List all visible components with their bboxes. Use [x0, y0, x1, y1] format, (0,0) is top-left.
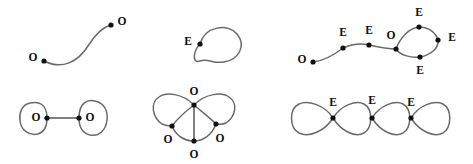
graph-vertex-label: O	[164, 133, 173, 145]
graph-vertex-dot	[393, 46, 398, 51]
graph-parity-figure: OOEOEEOEEEOOOOOOEEE	[0, 0, 473, 164]
graph-vertex-dot	[408, 115, 413, 120]
graph-vertex-dot	[369, 115, 374, 120]
graph-curve-edge	[44, 25, 111, 65]
graph-curve-edge	[194, 124, 216, 141]
graph-vertex-label: O	[118, 15, 127, 27]
graph-vertex-dot	[108, 22, 113, 27]
graph-vertex-label: O	[29, 51, 38, 63]
graph-panel-single-loop-one-even: E	[184, 28, 241, 63]
graph-vertex-dot	[340, 45, 345, 50]
graph-vertex-dot	[169, 123, 174, 128]
graph-svg-canvas: OOEOEEOEEEOOOOOOEEE	[0, 0, 473, 164]
graph-vertex-dot	[197, 41, 202, 46]
graph-vertex-label: O	[86, 111, 95, 123]
graph-vertex-dot	[310, 59, 315, 64]
graph-loop-edge	[333, 103, 371, 135]
graph-curve-edge	[194, 105, 216, 124]
graph-vertex-label: O	[298, 53, 307, 65]
graph-vertex-dot	[213, 121, 218, 126]
graph-vertex-label: O	[387, 29, 396, 41]
graph-vertex-label: E	[184, 35, 192, 47]
graph-curve-edge	[172, 126, 194, 141]
graph-curve-edge	[369, 45, 396, 49]
graph-curve-edge	[313, 48, 343, 62]
graph-vertex-label: E	[368, 94, 376, 106]
graph-vertex-label: E	[339, 26, 347, 38]
graph-vertex-label: O	[216, 132, 225, 144]
graph-curve-edge	[396, 49, 420, 57]
graph-curve-edge	[419, 27, 438, 40]
graph-curve-edge	[396, 27, 419, 49]
graph-vertex-label: E	[416, 64, 424, 76]
graph-vertex-dot	[191, 138, 196, 143]
graph-panel-double-loop-four-odd: OOOO	[153, 85, 234, 160]
graph-curve-edge	[420, 40, 438, 57]
graph-vertex-dot	[44, 115, 49, 120]
graph-vertex-label: E	[329, 96, 337, 108]
graph-vertex-dot	[435, 37, 440, 42]
graph-vertex-label: E	[365, 24, 373, 36]
graph-loop-edge	[372, 103, 410, 135]
graph-curve-edge	[343, 44, 369, 48]
graph-curve-edge	[172, 105, 194, 126]
graph-vertex-dot	[330, 115, 335, 120]
graph-vertex-label: O	[32, 111, 41, 123]
graph-vertex-dot	[417, 54, 422, 59]
graph-vertex-dot	[76, 115, 81, 120]
graph-vertex-label: O	[190, 85, 199, 97]
graph-panel-path-with-loop-two-odd: OEEOEEE	[298, 6, 457, 76]
graph-vertex-dot	[41, 58, 46, 63]
graph-panel-two-loops-bridge-two-odd: OO	[20, 101, 107, 136]
graph-vertex-label: E	[448, 31, 456, 43]
graph-vertex-dot	[191, 102, 196, 107]
graph-vertex-dot	[416, 24, 421, 29]
graph-vertex-dot	[366, 42, 371, 47]
graph-loop-edge	[411, 103, 450, 135]
graph-vertex-label: O	[190, 148, 199, 160]
graph-loop-edge	[292, 103, 334, 135]
graph-panel-four-loop-chain-three-even: EEE	[292, 94, 450, 135]
graph-vertex-label: E	[407, 96, 415, 108]
graph-panel-open-path-two-odd: OO	[29, 15, 127, 65]
graph-vertex-label: E	[415, 6, 423, 18]
